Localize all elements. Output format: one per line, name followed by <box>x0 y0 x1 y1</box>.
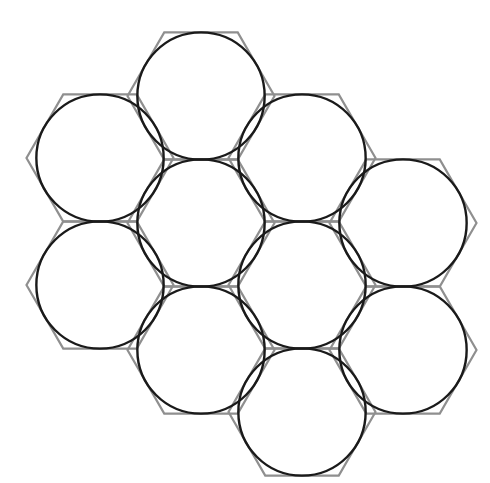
hexagon-layer <box>27 32 477 475</box>
circle-layer <box>36 32 466 475</box>
inscribed-circle-lower-right <box>339 286 466 413</box>
hexagon-circle-packing-diagram <box>0 0 490 483</box>
hexagon-cell-upper-right <box>229 94 376 221</box>
inscribed-circle-upper-right <box>238 94 365 221</box>
inscribed-circle-middle-center <box>238 221 365 348</box>
hexagon-cell-upper-left <box>27 94 174 221</box>
hexagon-cell-lower-right <box>330 286 477 413</box>
figure-canvas <box>0 0 490 483</box>
hexagon-cell-middle-inner-left <box>128 159 275 286</box>
hexagon-cell-bottom-center <box>229 348 376 475</box>
inscribed-circle-right <box>339 159 466 286</box>
inscribed-circle-upper-left <box>36 94 163 221</box>
inscribed-circle-middle-inner-left <box>137 159 264 286</box>
hexagon-cell-middle-left <box>27 221 174 348</box>
hexagon-cell-right <box>330 159 477 286</box>
inscribed-circle-bottom-center <box>238 348 365 475</box>
hexagon-cell-lower-inner-left <box>128 286 275 413</box>
hexagon-cell-top-center <box>128 32 275 159</box>
inscribed-circle-middle-left <box>36 221 163 348</box>
hexagon-cell-middle-center <box>229 221 376 348</box>
inscribed-circle-lower-inner-left <box>137 286 264 413</box>
inscribed-circle-top-center <box>137 32 264 159</box>
